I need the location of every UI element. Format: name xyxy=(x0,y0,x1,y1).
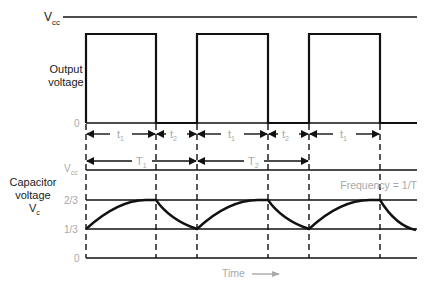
level-2-3: 2/3 xyxy=(64,195,78,206)
capacitor-label-3: Vc xyxy=(29,202,40,216)
timing-diagram-svg: Vcc Output voltage 0 t1 t2 t1 t2 t1 xyxy=(0,0,428,287)
capacitor-label-2: voltage xyxy=(15,189,50,201)
interval-t2-a: t2 xyxy=(170,128,177,142)
interval-t1-b: t1 xyxy=(228,128,235,142)
capacitor-voltage-panel: Capacitor voltage Vc Vcc 2/3 1/3 0 Frequ… xyxy=(9,163,417,264)
period-T1: T1 xyxy=(136,155,147,169)
interval-t2-b: t2 xyxy=(282,128,289,142)
time-axis: Time xyxy=(222,267,279,279)
interval-arrows: t1 t2 t1 t2 t1 xyxy=(87,128,379,142)
timing-diagram: Vcc Output voltage 0 t1 t2 t1 t2 t1 xyxy=(0,0,428,287)
frequency-annotation: Frequency = 1/T xyxy=(340,179,417,191)
capacitor-label-1: Capacitor xyxy=(9,176,56,188)
time-label: Time xyxy=(222,267,245,279)
zero-label-top: 0 xyxy=(74,118,80,129)
output-voltage-panel: Vcc Output voltage 0 xyxy=(44,10,417,129)
interval-t1-a: t1 xyxy=(117,128,124,142)
interval-t1-c: t1 xyxy=(340,128,347,142)
level-0: 0 xyxy=(74,253,80,264)
output-voltage-label-2: voltage xyxy=(48,76,83,88)
output-voltage-label-1: Output xyxy=(49,63,82,75)
period-T2: T2 xyxy=(248,155,259,169)
capacitor-charge-curve xyxy=(86,200,416,230)
vcc-label: Vcc xyxy=(44,10,60,27)
square-wave xyxy=(86,34,417,123)
level-vcc: Vcc xyxy=(64,163,78,176)
time-guides xyxy=(86,124,380,258)
level-1-3: 1/3 xyxy=(64,224,78,235)
